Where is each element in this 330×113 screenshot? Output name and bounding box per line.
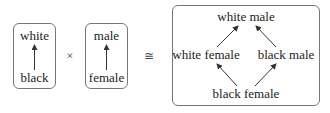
arrow-blackmale-to-whitemale <box>256 26 276 47</box>
arrow-blackfemale-to-whitefemale <box>217 64 237 86</box>
arrow-whitefemale-to-whitemale <box>217 26 238 47</box>
arrow-blackfemale-to-blackmale <box>255 64 276 86</box>
arrows-layer <box>0 0 330 113</box>
